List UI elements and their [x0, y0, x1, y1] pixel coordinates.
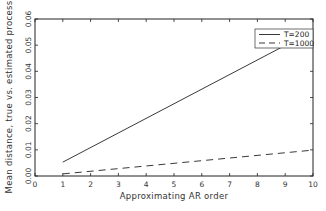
data-series: [63, 31, 313, 174]
x-tick-label: 6: [199, 180, 204, 189]
line-chart: 012345678910 0.000.010.020.030.040.050.0…: [0, 0, 326, 211]
series-line-t200: [63, 31, 313, 162]
x-tick-label: 8: [255, 180, 260, 189]
x-tick-label: 7: [227, 180, 232, 189]
y-tick-label: 0.05: [24, 37, 33, 54]
x-tick-label: 9: [283, 180, 288, 189]
x-tick-label: 10: [308, 180, 318, 189]
x-tick-label: 2: [88, 180, 93, 189]
series-line-t1000: [63, 150, 313, 174]
x-tick-label: 4: [144, 180, 149, 189]
y-axis-label: Mean distance, true vs. estimated proces…: [4, 0, 14, 193]
y-tick-label: 0.06: [24, 10, 33, 27]
x-tick-label: 3: [116, 180, 121, 189]
x-tick-label: 1: [60, 180, 65, 189]
legend-label-t1000: T=1000: [283, 39, 314, 48]
y-tick-label: 0.04: [24, 63, 33, 80]
y-tick-label: 0.00: [24, 167, 33, 184]
y-tick-label: 0.03: [24, 89, 33, 106]
legend: T=200 T=1000: [255, 29, 314, 48]
x-axis-label: Approximating AR order: [120, 191, 229, 201]
x-tick-label: 5: [172, 180, 177, 189]
y-tick-label: 0.02: [24, 115, 33, 132]
y-tick-label: 0.01: [24, 141, 33, 158]
x-tick-label: 0: [33, 180, 38, 189]
